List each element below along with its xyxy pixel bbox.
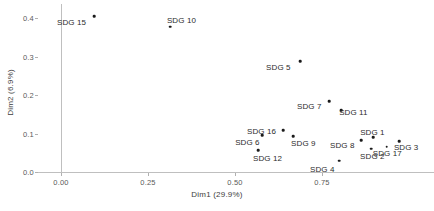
y-axis-line xyxy=(61,4,62,176)
data-point xyxy=(360,139,363,142)
data-point xyxy=(282,129,285,132)
scatter-plot-figure: 0.000.250.500.75 0.00.10.20.30.4 SDG 15S… xyxy=(0,0,434,211)
x-tick-label: 0.00 xyxy=(53,178,68,187)
y-tick-mark xyxy=(35,172,38,173)
data-point-label: SDG 9 xyxy=(291,139,316,148)
y-tick-mark xyxy=(35,18,38,19)
y-tick-label: 0.3 xyxy=(16,52,34,61)
y-tick-label: 0.4 xyxy=(16,14,34,23)
data-point-label: SDG 15 xyxy=(57,18,86,27)
data-point xyxy=(370,148,373,151)
y-axis-title: Dim2 (6.9%) xyxy=(6,48,15,138)
data-point-label: SDG 11 xyxy=(339,108,367,117)
y-tick-mark xyxy=(35,57,38,58)
data-point-label: SDG 10 xyxy=(167,16,196,25)
y-tick-label: 0.2 xyxy=(16,91,34,100)
x-tick-label: 0.25 xyxy=(140,178,155,187)
y-tick-mark xyxy=(35,95,38,96)
data-point-label: SDG 7 xyxy=(297,102,322,111)
x-tick-mark xyxy=(148,173,149,176)
data-point xyxy=(93,15,96,18)
x-axis-line xyxy=(38,172,434,173)
data-point-label: SDG 6 xyxy=(235,138,260,147)
data-point xyxy=(338,160,341,163)
data-point-label: SDG 2 xyxy=(360,152,385,161)
data-point-label: SDG 1 xyxy=(360,128,385,137)
plot-panel: 0.000.250.500.75 0.00.10.20.30.4 SDG 15S… xyxy=(0,0,434,211)
data-point xyxy=(328,100,331,103)
x-tick-label: 0.75 xyxy=(314,178,329,187)
x-tick-mark xyxy=(61,173,62,176)
data-point xyxy=(169,26,172,29)
data-point xyxy=(292,135,295,138)
data-point xyxy=(257,149,260,152)
y-tick-label: 0.0 xyxy=(16,168,34,177)
data-point xyxy=(385,145,388,148)
x-tick-mark xyxy=(235,173,236,176)
y-tick-label: 0.1 xyxy=(16,129,34,138)
data-point xyxy=(261,134,264,137)
y-tick-mark xyxy=(35,134,38,135)
data-point-label: SDG 5 xyxy=(266,63,291,72)
data-point xyxy=(398,140,401,143)
x-tick-label: 0.50 xyxy=(227,178,242,187)
x-axis-title: Dim1 (29.9%) xyxy=(0,190,434,199)
data-point-label: SDG 4 xyxy=(310,165,335,174)
data-point-label: SDG 8 xyxy=(330,141,355,150)
data-point xyxy=(299,60,302,63)
data-point-label: SDG 12 xyxy=(253,154,282,163)
